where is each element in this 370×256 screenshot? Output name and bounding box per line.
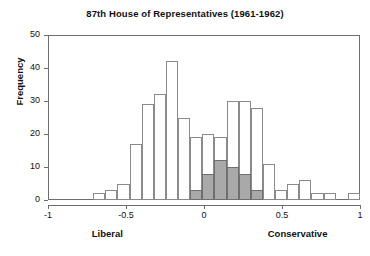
chart-title: 87th House of Representatives (1961-1962…: [0, 8, 370, 19]
x-tick-label: 0.5: [262, 210, 302, 220]
x-tick-mark: [48, 205, 49, 209]
histogram-bar: [263, 164, 275, 200]
histogram-bar: [178, 118, 190, 201]
y-tick-label: 40: [6, 62, 40, 72]
y-tick-label: 0: [6, 194, 40, 204]
y-tick-mark: [44, 200, 48, 201]
histogram-bar-shaded: [202, 174, 214, 200]
y-tick-label: 20: [6, 128, 40, 138]
y-tick-label: 30: [6, 95, 40, 105]
histogram-bar-shaded: [239, 174, 251, 200]
x-tick-label: 0: [184, 210, 224, 220]
x-tick-mark: [360, 205, 361, 209]
histogram-bar: [142, 104, 154, 200]
x-axis-pole-label-liberal: Liberal: [47, 228, 167, 239]
histogram-bar: [299, 180, 311, 200]
histogram-bar: [93, 193, 105, 200]
x-axis-pole-label-conservative: Conservative: [238, 228, 358, 239]
x-tick-mark: [126, 205, 127, 209]
histogram-bar: [311, 193, 323, 200]
histogram-bar: [275, 190, 287, 200]
histogram-bar: [105, 190, 117, 200]
x-tick-mark: [204, 205, 205, 209]
x-tick-label: -0.5: [106, 210, 146, 220]
histogram-bar-shaded: [251, 190, 263, 200]
histogram-bar-shaded: [227, 167, 239, 200]
histogram-bar: [117, 184, 129, 201]
x-tick-label: 1: [340, 210, 370, 220]
histogram-bar-shaded: [190, 190, 202, 200]
x-tick-mark: [282, 205, 283, 209]
y-axis-label: Frequency: [14, 37, 25, 127]
histogram-bar: [130, 144, 142, 200]
histogram-bar: [166, 61, 178, 200]
histogram-bar: [348, 193, 360, 200]
y-tick-label: 50: [6, 29, 40, 39]
x-tick-label: -1: [28, 210, 68, 220]
histogram-bar: [324, 193, 336, 200]
histogram-bar: [251, 108, 263, 200]
histogram-bar: [154, 94, 166, 200]
y-tick-label: 10: [6, 161, 40, 171]
bars-layer: [48, 35, 360, 200]
histogram-bar: [287, 184, 299, 201]
histogram-figure: 87th House of Representatives (1961-1962…: [0, 0, 370, 256]
histogram-bar-shaded: [214, 160, 226, 200]
